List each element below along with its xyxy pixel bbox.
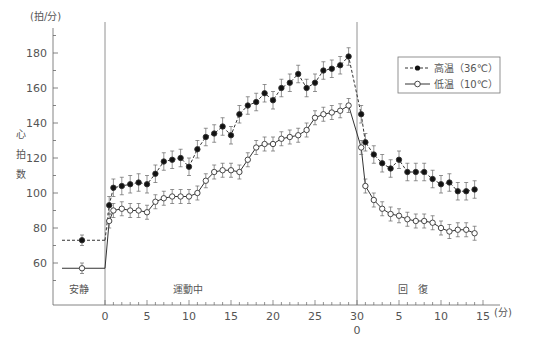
data-point-hot [371, 152, 376, 157]
y-unit-label: (拍/分) [30, 10, 61, 22]
data-point-hot [186, 164, 191, 169]
y-tick-label: 120 [26, 152, 47, 165]
data-point-cold [107, 218, 112, 223]
data-point-cold [422, 218, 427, 223]
data-point-hot [220, 124, 225, 129]
x-tick-label-recovery-zero: 0 [354, 324, 361, 337]
data-point-cold [329, 110, 334, 115]
y-label-char-2: 拍 [16, 148, 26, 160]
data-point-cold [438, 225, 443, 230]
data-point-hot [279, 85, 284, 90]
data-point-hot [254, 99, 259, 104]
data-point-cold [312, 115, 317, 120]
y-tick-label: 180 [26, 47, 47, 60]
y-tick-label: 100 [26, 187, 47, 200]
y-tick-label: 160 [26, 82, 47, 95]
data-point-hot [422, 169, 427, 174]
data-point-hot [455, 189, 460, 194]
y-tick-label: 80 [33, 222, 47, 235]
data-point-hot [153, 171, 158, 176]
phase-label-rest: 安静 [69, 283, 89, 295]
x-tick-label: 30 [350, 310, 364, 323]
data-point-cold [472, 231, 477, 236]
data-point-cold [413, 218, 418, 223]
data-point-cold [262, 141, 267, 146]
data-point-hot [472, 187, 477, 192]
legend-label-hot: 高温（36℃） [434, 62, 498, 74]
x-tick-label: 10 [182, 310, 196, 323]
data-point-cold [136, 208, 141, 213]
x-tick-label: 0 [102, 310, 109, 323]
heart-rate-chart: 6080100120140160180051015202530510150 高温… [0, 0, 534, 340]
data-point-cold [396, 213, 401, 218]
data-point-cold [220, 168, 225, 173]
data-point-cold [304, 127, 309, 132]
data-point-cold [245, 157, 250, 162]
data-point-hot [296, 71, 301, 76]
data-point-hot [464, 189, 469, 194]
data-point-cold [296, 133, 301, 138]
data-point-hot [338, 63, 343, 68]
data-point-cold [186, 194, 191, 199]
open-circle-marker-icon [415, 81, 421, 87]
x-tick-label: 15 [224, 310, 238, 323]
x-tick-label: 5 [144, 310, 151, 323]
data-point-hot [363, 140, 368, 145]
phase-label-recovery: 回 復 [398, 283, 428, 295]
data-point-hot [321, 68, 326, 73]
data-point-hot [380, 161, 385, 166]
data-point-hot [144, 182, 149, 187]
x-tick-label: 20 [266, 310, 280, 323]
data-point-hot [312, 80, 317, 85]
data-point-cold [254, 145, 259, 150]
x-tick-label: 15 [476, 310, 490, 323]
data-point-hot [447, 180, 452, 185]
data-point-hot [228, 133, 233, 138]
data-point-cold [79, 266, 84, 271]
data-point-cold [430, 220, 435, 225]
data-point-hot [195, 147, 200, 152]
data-point-cold [144, 210, 149, 215]
data-point-hot [359, 112, 364, 117]
data-point-cold [178, 194, 183, 199]
data-point-hot [405, 169, 410, 174]
data-point-hot [346, 54, 351, 59]
data-point-cold [455, 227, 460, 232]
data-point-hot [170, 157, 175, 162]
data-point-cold [388, 211, 393, 216]
data-point-cold [203, 178, 208, 183]
y-label-char-3: 数 [16, 168, 26, 180]
data-point-cold [287, 134, 292, 139]
data-point-cold [119, 206, 124, 211]
data-point-cold [359, 145, 364, 150]
data-point-hot [111, 185, 116, 190]
y-tick-label: 140 [26, 117, 47, 130]
data-point-hot [438, 182, 443, 187]
data-point-hot [270, 98, 275, 103]
data-point-cold [321, 112, 326, 117]
data-point-hot [430, 176, 435, 181]
data-point-hot [119, 183, 124, 188]
data-point-hot [304, 85, 309, 90]
x-unit-label: (分) [494, 307, 512, 318]
data-point-cold [371, 197, 376, 202]
data-point-cold [464, 227, 469, 232]
data-point-hot [388, 166, 393, 171]
data-point-cold [338, 108, 343, 113]
legend-label-cold: 低温（10℃） [434, 78, 498, 90]
phase-label-exercise: 運動中 [173, 283, 203, 295]
x-tick-label: 5 [396, 310, 403, 323]
data-point-cold [270, 141, 275, 146]
data-point-hot [287, 80, 292, 85]
legend: 高温（36℃） 低温（10℃） [398, 57, 500, 93]
data-point-hot [396, 157, 401, 162]
data-point-hot [262, 91, 267, 96]
x-tick-label: 25 [308, 310, 322, 323]
data-point-cold [405, 217, 410, 222]
data-point-cold [363, 183, 368, 188]
data-point-cold [212, 169, 217, 174]
y-label-char-1: 心 [16, 129, 26, 140]
y-tick-label: 60 [33, 257, 47, 270]
data-point-hot [79, 238, 84, 243]
data-point-cold [380, 206, 385, 211]
